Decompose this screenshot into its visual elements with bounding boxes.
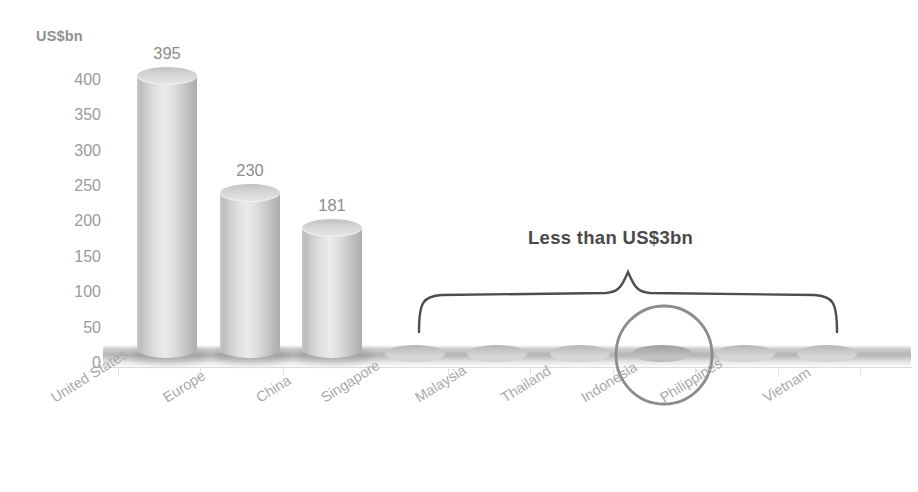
category-label-china: China [253, 372, 294, 406]
value-label-europe: 230 [236, 161, 264, 180]
bar-philippines[interactable] [715, 345, 775, 362]
bar-body-europe [220, 193, 280, 358]
bar-top-united-states [137, 67, 197, 85]
x-tick-8 [778, 368, 779, 375]
bar-top-china [302, 219, 362, 237]
bar-europe[interactable] [220, 184, 280, 358]
chart-canvas: US$bn 400 350 300 250 200 150 100 50 0 [0, 0, 918, 492]
bar-malaysia[interactable] [467, 345, 527, 362]
x-axis-line [100, 367, 912, 368]
bar-top-europe [220, 184, 280, 202]
bar-china[interactable] [302, 219, 362, 358]
value-label-united-states: 395 [153, 44, 181, 63]
bar-vietnam[interactable] [797, 345, 857, 362]
bar-thailand[interactable] [550, 345, 610, 362]
plot-area: 395 230 181 Less than US$3bn United Stat… [0, 0, 918, 492]
bar-united-states[interactable] [137, 67, 197, 358]
x-tick-9 [860, 368, 861, 375]
bar-singapore[interactable] [385, 345, 445, 362]
x-tick-0 [118, 368, 119, 375]
category-label-europe: Europe [160, 367, 208, 405]
category-label-malaysia: Malaysia [412, 362, 469, 406]
category-label-vietnam: Vietnam [760, 364, 813, 406]
value-label-china: 181 [318, 196, 346, 215]
bar-body-united-states [137, 76, 197, 358]
annotation-less-than-label: Less than US$3bn [528, 227, 693, 249]
category-label-thailand: Thailand [498, 363, 554, 406]
bar-body-china [302, 228, 362, 358]
category-label-united-states: United States [48, 346, 130, 406]
